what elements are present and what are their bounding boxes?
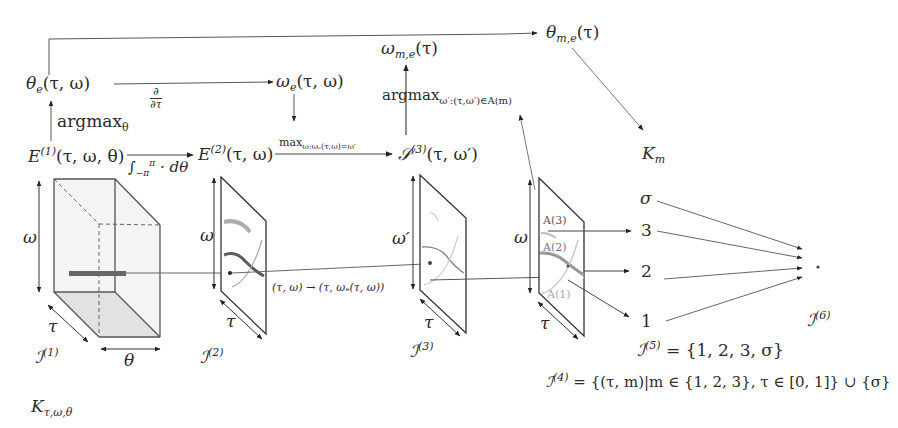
edge-panel4-to-argmax	[520, 115, 535, 190]
space-I3: ℐ(3)	[410, 343, 434, 360]
region-A1: A(1)	[547, 289, 571, 300]
node-omega-e: ωe(τ, ω)	[276, 73, 344, 90]
label-max: maxω:ωₑ(τ,ω)=ω′	[279, 137, 356, 148]
axis-omega-2: ω	[200, 227, 214, 244]
output-sigma: σ	[640, 190, 652, 207]
edge-theta-e-to-omega-e	[114, 82, 273, 84]
diagram-canvas	[0, 0, 898, 428]
I6-point	[816, 265, 819, 268]
axis-tau-1: τ	[48, 318, 57, 335]
edges-outputs-to-I6	[657, 201, 802, 321]
output-3: 3	[641, 222, 652, 239]
node-S3: 𝒮(3)(τ, ω′)	[398, 146, 478, 163]
axis-omega-prime-3: ω′	[392, 230, 410, 247]
label-mapping: (τ, ω) → (τ, ωₑ(τ, ω))	[272, 282, 384, 293]
node-E1: E(1)(τ, ω, θ)	[28, 148, 124, 165]
cube-slice-bar	[69, 271, 126, 276]
axis-tau-2: τ	[226, 313, 235, 330]
axis-theta-1: θ	[124, 352, 134, 369]
edge-theta-e-to-theta-me	[49, 33, 537, 75]
label-d-dtau: ∂∂τ	[150, 86, 162, 111]
space-I6: ℐ(6)	[807, 312, 831, 329]
space-I4: ℐ(4) = {(τ, m)|m ∈ {1, 2, 3}, τ ∈ [0, 1]…	[546, 375, 891, 390]
space-I5: ℐ(5) = {1, 2, 3, σ}	[637, 342, 784, 359]
node-E2: E(2)(τ, ω)	[198, 146, 273, 163]
node-theta-e: θe(τ, ω)	[26, 75, 90, 92]
label-integral: ∫−ππ · dθ	[128, 160, 188, 175]
edge-theta-me-to-Km	[572, 48, 643, 130]
axis-omega-4: ω	[514, 229, 528, 246]
panel-E2	[214, 177, 266, 339]
space-I1: ℐ(1)	[35, 349, 59, 366]
space-I2: ℐ(2)	[200, 349, 224, 366]
output-1: 1	[641, 313, 652, 330]
node-theta-me: θm,e(τ)	[546, 24, 599, 41]
label-argmax-theta: argmaxθ	[57, 113, 129, 130]
region-A2: A(2)	[543, 242, 567, 253]
node-K-m: Km	[642, 145, 665, 162]
label-argmax-omega: argmaxω′:(τ,ω′)∈A(m)	[382, 88, 512, 103]
region-A3: A(3)	[543, 215, 567, 226]
panel-S3	[413, 175, 466, 336]
kernel-K-tau-omega-theta: Kτ,ω,θ	[31, 398, 72, 415]
node-omega-me: ωm,e(τ)	[381, 40, 438, 57]
panel-regions	[530, 178, 584, 339]
axis-tau-3: τ	[424, 314, 433, 331]
output-2: 2	[641, 263, 652, 280]
axis-omega-1: ω	[23, 229, 37, 246]
axis-tau-4: τ	[540, 315, 549, 332]
